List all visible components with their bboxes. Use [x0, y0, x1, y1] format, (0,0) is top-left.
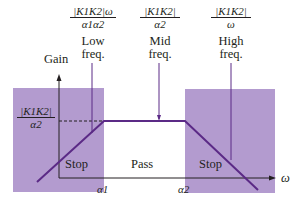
gain-diagram: |K1K2|ω α1α2 Low freq. |K1K2| α2 Mid fre… [0, 0, 299, 206]
region-label-low-stop: Stop [65, 158, 88, 171]
high-freq-label: High freq. [209, 35, 253, 61]
low-freq-label: Low freq. [72, 35, 114, 61]
y-axis-label: Gain [44, 53, 68, 66]
plot-lines [0, 0, 299, 206]
low-freq-formula: |K1K2|ω α1α2 [70, 5, 116, 30]
x-tick-alpha2: α2 [178, 183, 189, 196]
x-axis-label: ω [281, 172, 290, 185]
region-label-high-stop: Stop [199, 158, 222, 171]
region-label-pass: Pass [131, 158, 153, 171]
high-freq-formula: |K1K2| ω [211, 5, 251, 30]
x-tick-alpha1: α1 [97, 183, 108, 196]
gain-level-label: |K1K2| α2 [17, 105, 55, 130]
mid-freq-label: Mid freq. [140, 35, 180, 61]
mid-freq-formula: |K1K2| α2 [140, 5, 180, 30]
